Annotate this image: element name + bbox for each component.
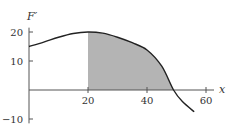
x-axis-label: x xyxy=(219,83,226,96)
x-tick-label: 20 xyxy=(82,95,95,106)
y-tick-label: 10 xyxy=(10,56,23,67)
chart-svg: 2040602010−10 F′ x xyxy=(0,0,231,132)
chart: 2040602010−10 F′ x xyxy=(0,0,231,132)
x-tick-label: 60 xyxy=(200,95,213,106)
x-tick-label: 40 xyxy=(141,95,154,106)
shaded-area xyxy=(88,32,174,90)
y-tick-label: −10 xyxy=(2,114,23,125)
y-tick-label: 20 xyxy=(10,27,23,38)
y-axis-label: F′ xyxy=(26,10,38,23)
